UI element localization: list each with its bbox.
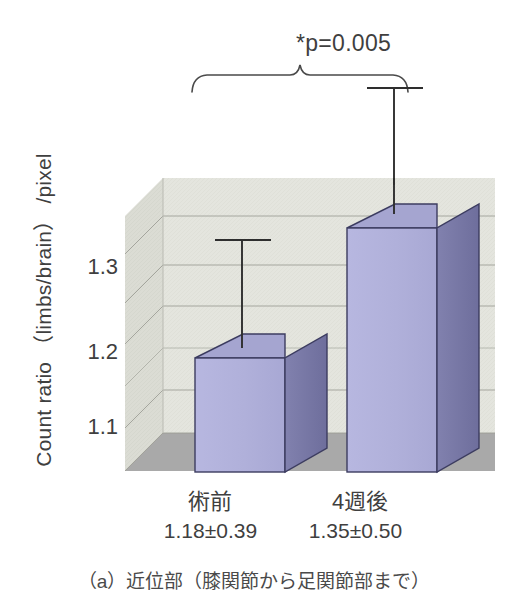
plot-area: [125, 178, 495, 478]
bar-column-1: [347, 204, 479, 472]
error-bar-1-upper: [125, 85, 495, 185]
bar-column-0: [195, 334, 327, 472]
y-tick-label-1-3: 1.3: [62, 254, 118, 280]
figure-caption: （a）近位部（膝関節から足関節部まで）: [0, 566, 508, 593]
value-label-4-weeks: 1.35±0.50: [283, 519, 428, 543]
category-label-4-weeks: 4週後: [300, 483, 420, 515]
significance-brace-bracket: [190, 63, 410, 93]
category-label-pre-op: 術前: [155, 483, 265, 515]
significance-p-value-label: *p=0.005: [296, 30, 391, 57]
y-axis-title: Count ratio （limbs/brain） /pixel: [27, 145, 57, 475]
y-tick-label-1-1: 1.1: [62, 414, 118, 440]
y-tick-label-1-2: 1.2: [62, 339, 118, 365]
bar-chart-figure: *p=0.005 Count ratio （limbs/brain） /pixe…: [0, 0, 508, 609]
value-label-pre-op: 1.18±0.39: [138, 519, 283, 543]
